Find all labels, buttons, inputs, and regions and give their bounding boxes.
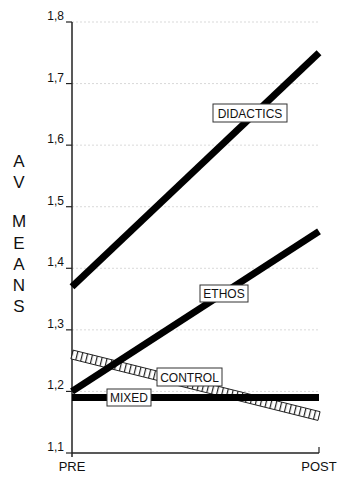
- y-tick-label: 1,1: [47, 440, 64, 454]
- series-label-control: CONTROL: [157, 368, 222, 386]
- y-tick-label: 1,6: [47, 132, 64, 146]
- y-tick-label: 1,4: [47, 255, 64, 269]
- x-tick-label: POST: [301, 459, 336, 474]
- x-tick-label: PRE: [59, 459, 86, 474]
- svg-text:ETHOS: ETHOS: [203, 287, 244, 301]
- y-tick-label: 1,2: [47, 378, 64, 392]
- y-tick-label: 1,3: [47, 317, 64, 331]
- y-tick-label: 1,5: [47, 194, 64, 208]
- y-tick-label: 1,7: [47, 71, 64, 85]
- svg-text:DIDACTICS: DIDACTICS: [218, 107, 283, 121]
- gridlines: [72, 22, 319, 391]
- line-chart: 1,11,21,31,41,51,61,71,8PREPOST DIDACTIC…: [0, 0, 346, 485]
- svg-text:MIXED: MIXED: [110, 391, 148, 405]
- series-label-didactics: DIDACTICS: [213, 104, 287, 122]
- series-label-ethos: ETHOS: [200, 285, 248, 302]
- series-labels: DIDACTICSETHOSCONTROLMIXED: [107, 104, 287, 406]
- series-label-mixed: MIXED: [107, 389, 151, 406]
- svg-text:CONTROL: CONTROL: [160, 371, 219, 385]
- y-tick-label: 1,8: [47, 9, 64, 23]
